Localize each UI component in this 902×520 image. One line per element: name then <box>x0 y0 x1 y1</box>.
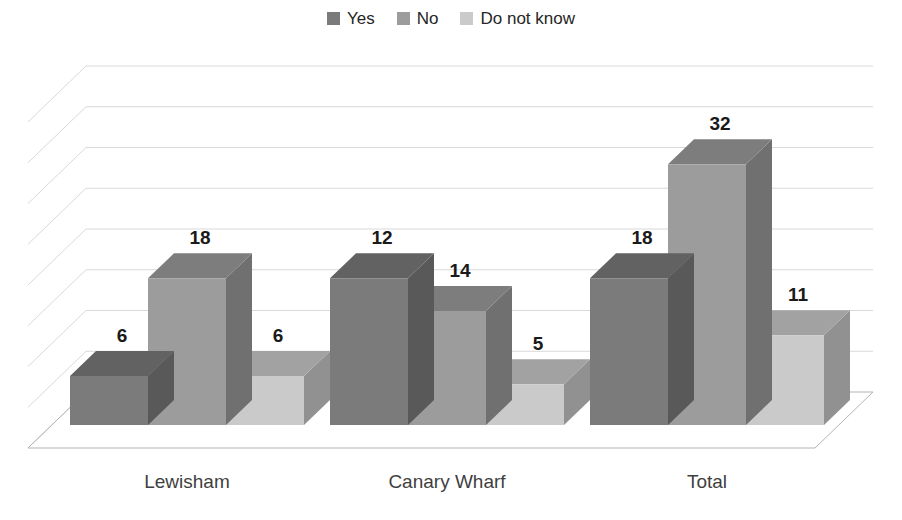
data-label: 6 <box>273 325 284 346</box>
chart-category-axis: LewishamCanary WharfTotal <box>144 471 727 492</box>
bar-lewisham-yes <box>70 351 174 425</box>
chart-container: Yes No Do not know 618651412113218 Lewis… <box>0 0 902 520</box>
bar-total-yes <box>590 253 694 425</box>
data-label: 5 <box>533 333 544 354</box>
chart-bars <box>70 139 850 425</box>
chart-plot-area: 618651412113218 LewishamCanary WharfTota… <box>0 0 902 520</box>
category-label: Canary Wharf <box>388 471 506 492</box>
category-label: Lewisham <box>144 471 230 492</box>
data-label: 32 <box>709 113 730 134</box>
data-label: 11 <box>788 284 809 305</box>
data-label: 18 <box>189 227 210 248</box>
data-label: 14 <box>449 260 471 281</box>
bar-canary-wharf-yes <box>330 253 434 425</box>
data-label: 18 <box>631 227 652 248</box>
data-label: 6 <box>117 325 128 346</box>
category-label: Total <box>687 471 727 492</box>
data-label: 12 <box>371 227 392 248</box>
